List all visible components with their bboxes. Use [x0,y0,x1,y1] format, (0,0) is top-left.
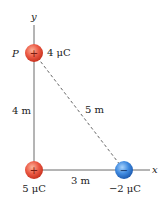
diagonal-distance-label: 5 m [85,104,105,115]
minus-sign-icon: − [120,165,128,176]
charge-p: + [25,44,43,62]
charge-negative: − [115,161,133,179]
charge-origin: + [25,161,43,179]
plus-sign-icon: + [30,48,38,59]
x-axis-label: x [152,164,158,175]
diagonal-dashed-line [34,53,124,170]
plus-sign-icon: + [30,165,38,176]
y-axis-label: y [30,11,37,22]
vertical-distance-label: 4 m [12,105,32,116]
point-p-label: P [11,48,19,59]
charge-negative-value: −2 μC [109,183,141,194]
charge-origin-value: 5 μC [22,183,46,194]
charge-diagram: y x P + 4 μC 4 m 5 m 3 m + 5 μC − −2 μC [0,0,168,203]
charge-p-value: 4 μC [47,47,71,58]
horizontal-distance-label: 3 m [71,175,91,186]
